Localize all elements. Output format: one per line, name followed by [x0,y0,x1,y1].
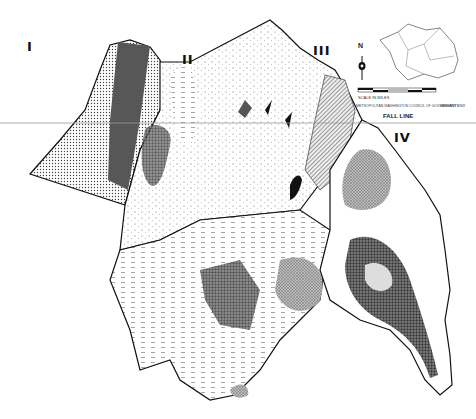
region-label-II: II [182,52,194,67]
inset-locator-map [380,24,458,80]
region-label-IV: IV [394,130,411,145]
scale-bar: SCALE IN MILES [358,86,436,100]
north-arrow: N [355,42,369,82]
region-IV [320,120,452,395]
fall-line-label: FALL LINE [383,113,413,119]
north-letter: N [358,42,363,49]
credit-date: JANUARY 1968 [440,104,465,108]
scale-label: SCALE IN MILES [358,95,389,100]
geologic-map [0,0,476,419]
region-label-I: I [27,39,33,54]
region-label-III: III [313,43,331,58]
